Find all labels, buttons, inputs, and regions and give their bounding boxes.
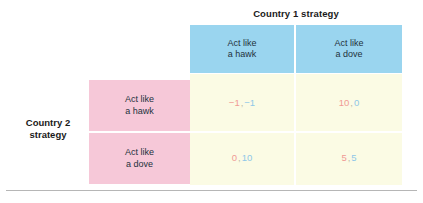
payoff-cell-dove-hawk: 0,10 (190, 131, 294, 185)
column-header-hawk-line2: a hawk (227, 49, 256, 61)
row-header-hawk: Act like a hawk (89, 80, 190, 131)
row-group-title-line2: strategy (10, 129, 86, 141)
header-divider (190, 73, 402, 74)
payoff-value-country1: −1 (244, 97, 255, 109)
row-group-title-line1: Country 2 (10, 117, 86, 129)
column-header-dove-line2: a dove (334, 49, 363, 61)
payoff-cell-dove-dove: 5,5 (296, 131, 402, 185)
payoff-value-country2: −1 (229, 97, 240, 109)
payoff-value-country2: 10 (339, 97, 350, 109)
row-header-dove: Act like a dove (89, 133, 190, 184)
column-divider (294, 25, 296, 185)
row-divider (89, 131, 402, 133)
payoff-value-country1: 0 (354, 97, 359, 109)
row-header-hawk-line2: a hawk (125, 106, 154, 118)
column-header-hawk-line1: Act like (227, 38, 256, 50)
column-header-hawk: Act like a hawk (190, 25, 294, 73)
column-group-title: Country 1 strategy (190, 8, 402, 19)
payoff-value-country1: 10 (242, 152, 253, 164)
row-group-title: Country 2 strategy (10, 117, 86, 140)
row-header-hawk-line1: Act like (125, 94, 154, 106)
column-header-dove-line1: Act like (334, 38, 363, 50)
column-header-dove: Act like a dove (296, 25, 402, 73)
row-header-dove-line1: Act like (125, 147, 154, 159)
payoff-matrix-figure: Country 1 strategy Country 2 strategy Ac… (0, 0, 423, 203)
payoff-cell-hawk-dove: 10,0 (296, 74, 402, 131)
bottom-rule (6, 190, 417, 191)
row-header-dove-line2: a dove (125, 159, 154, 171)
payoff-cell-hawk-hawk: −1,−1 (190, 74, 294, 131)
payoff-value-country1: 5 (351, 152, 356, 164)
